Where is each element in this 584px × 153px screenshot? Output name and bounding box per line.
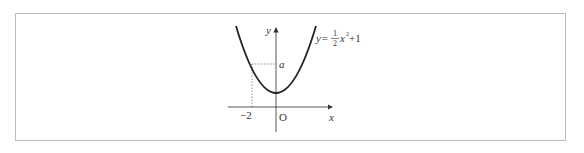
y-axis-label: y <box>265 24 271 36</box>
x-axis-label: x <box>328 111 334 123</box>
equation-den: 2 <box>333 39 337 48</box>
a-label: a <box>279 58 285 70</box>
equation-num: 1 <box>333 29 337 38</box>
origin-label: O <box>279 111 287 123</box>
parabola-graph: y x O −2 a y= 1 2 x 2 +1 <box>0 0 584 153</box>
equation-lhs: y= <box>315 32 328 44</box>
x-tick-label: −2 <box>240 109 252 121</box>
equation-rest: +1 <box>349 32 361 44</box>
equation-var: x <box>339 32 345 44</box>
